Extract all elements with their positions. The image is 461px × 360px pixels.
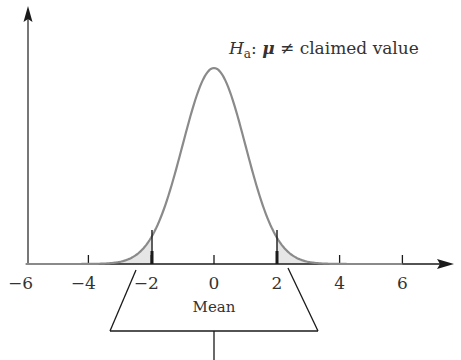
hypothesis-colon: : [251,38,262,58]
hypothesis-subscript: a [244,47,251,61]
x-tick-label: 2 [271,273,282,293]
x-tick-label: −2 [134,273,159,293]
alternative-hypothesis-label: Ha: μ ≠ claimed value [228,38,419,61]
critical-value-base-left [151,251,154,264]
hypothesis-h: H [228,38,245,58]
x-tick-label: −4 [71,273,96,293]
mean-label: Mean [193,298,236,316]
critical-value-base-right [276,251,279,264]
normal-distribution-chart: −6−4−20246 Ha: μ ≠ claimed value Mean [0,0,461,360]
hypothesis-text: ≠ claimed value [275,38,419,58]
hypothesis-mu: μ [262,38,274,58]
x-tick-label: 6 [397,273,408,293]
x-tick-label: 0 [209,273,220,293]
x-tick-label: −6 [8,273,33,293]
x-tick-label: 4 [334,273,345,293]
density-curve [26,68,403,264]
x-axis-tick-labels: −6−4−20246 [8,273,408,293]
